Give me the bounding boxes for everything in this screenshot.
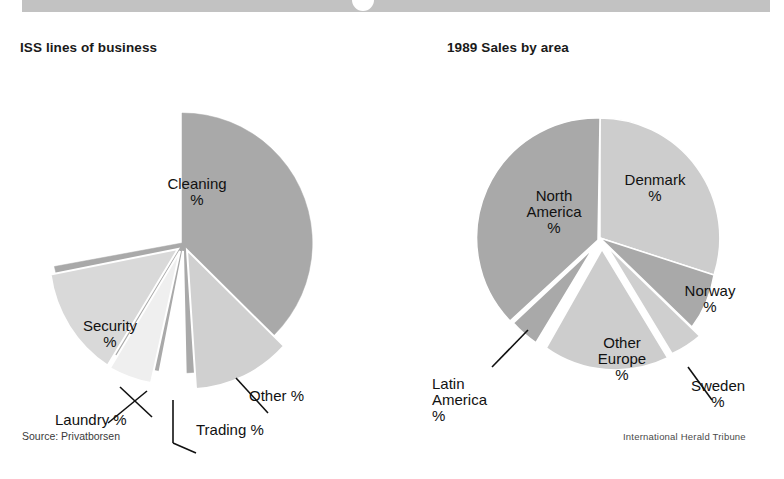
infographic-page: ISS lines of business [0,0,784,479]
slice-label-trading: Trading % [196,422,326,438]
slice-label-sweden: Sweden % [665,378,771,410]
slice-label-denmark: Denmark % [600,172,710,204]
slice-label-cleaning: Cleaning % [143,176,251,208]
source-note-left: Source: Privatborsen [22,430,120,442]
circle-notch-icon [352,0,374,11]
pie-left-svg [0,55,392,435]
slice-label-norway: Norway % [662,283,758,315]
slice-label-laundry: Laundry % [55,412,185,428]
top-banner-strip [22,0,770,12]
leader-line-latin-america [492,330,528,367]
publisher-credit: International Herald Tribune [623,431,746,442]
slice-label-latin-america: Latin America % [432,376,542,425]
pie-chart-iss-lines-of-business [0,55,392,435]
leader-line-trading-2 [173,443,196,453]
slice-label-north-america: North America % [504,188,604,237]
slice-label-other: Other % [249,388,359,404]
page-title-right-chart: 1989 Sales by area [447,40,569,55]
slice-label-security: Security % [60,318,160,350]
page-title-left-chart: ISS lines of business [20,40,157,55]
slice-label-other-europe: Other Europe % [570,335,674,384]
